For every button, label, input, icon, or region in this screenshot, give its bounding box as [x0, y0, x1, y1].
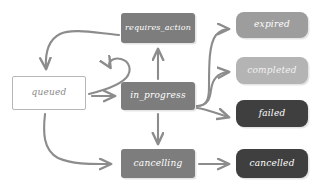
node-requires-action[interactable]: requires_action [121, 13, 195, 43]
edge-requires-action-to-queued [46, 31, 119, 68]
node-completed-label: completed [247, 66, 296, 75]
edge-in-progress-to-completed [197, 72, 228, 106]
node-cancelled[interactable]: cancelled [236, 149, 308, 178]
node-expired-label: expired [254, 20, 290, 29]
node-queued[interactable]: queued [12, 76, 86, 110]
node-in-progress[interactable]: in_progress [121, 82, 195, 110]
node-cancelling-label: cancelling [134, 159, 183, 168]
node-in-progress-label: in_progress [130, 91, 185, 100]
node-queued-label: queued [32, 88, 67, 97]
edge-in-progress-to-failed [197, 108, 228, 117]
node-failed-label: failed [259, 109, 286, 118]
node-failed[interactable]: failed [236, 100, 308, 127]
edge-in-progress-to-expired [197, 29, 228, 106]
node-expired[interactable]: expired [236, 12, 308, 38]
node-cancelled-label: cancelled [249, 159, 294, 168]
state-diagram: queued requires_action in_progress cance… [0, 0, 319, 191]
node-completed[interactable]: completed [236, 57, 308, 84]
node-cancelling[interactable]: cancelling [121, 149, 195, 178]
edge-queued-to-cancelling [44, 114, 110, 164]
node-requires-action-label: requires_action [125, 24, 191, 32]
